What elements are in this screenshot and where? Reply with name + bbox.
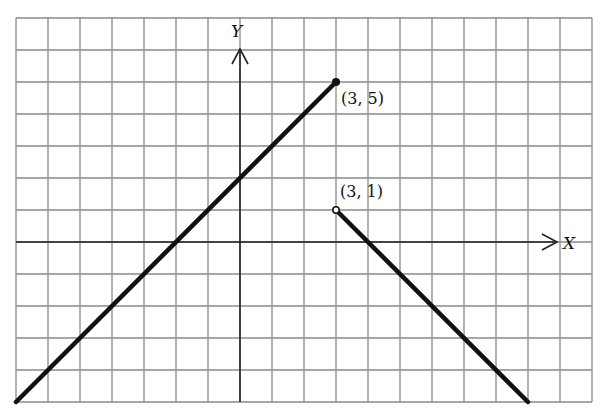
x-axis-label: X xyxy=(561,233,576,253)
graph-canvas: X Y (3, 5) (3, 1) xyxy=(0,0,605,417)
grid xyxy=(16,18,592,402)
y-axis-label: Y xyxy=(231,21,244,41)
filled-point-icon xyxy=(332,78,340,86)
point-label-open: (3, 1) xyxy=(340,182,383,201)
point-label-filled: (3, 5) xyxy=(341,89,384,108)
open-point-icon xyxy=(333,207,339,213)
